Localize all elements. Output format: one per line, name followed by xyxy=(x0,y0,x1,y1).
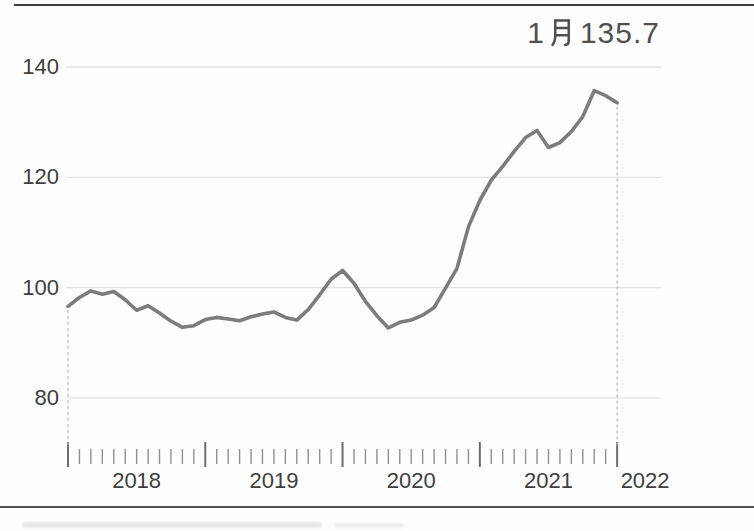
y-axis-tick-label: 120 xyxy=(0,166,59,188)
x-axis-year-label: 2020 xyxy=(371,470,451,492)
figure-bottom-border xyxy=(0,506,754,508)
x-axis-year-label: 2021 xyxy=(508,470,588,492)
y-axis-tick-label: 140 xyxy=(0,56,59,78)
y-axis-tick-label: 80 xyxy=(0,387,59,409)
line-chart xyxy=(0,0,754,531)
cropped-text-remnant xyxy=(22,522,322,528)
y-axis-tick-label: 100 xyxy=(0,277,59,299)
chart-figure: 1 135.7 80100120140 20182019202020212022 xyxy=(0,0,754,531)
cropped-text-remnant xyxy=(334,523,404,528)
x-axis-year-label: 2022 xyxy=(605,470,685,492)
x-axis-year-label: 2019 xyxy=(234,470,314,492)
x-axis-year-label: 2018 xyxy=(97,470,177,492)
